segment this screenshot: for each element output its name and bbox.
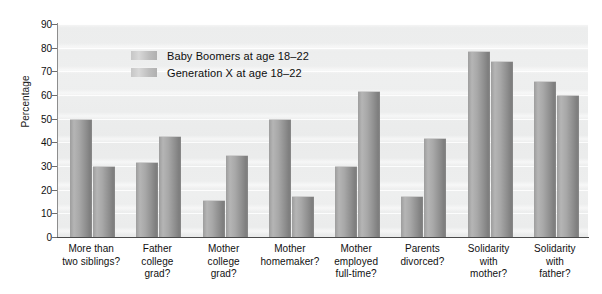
bar	[335, 166, 357, 237]
y-tick-label: 10	[6, 208, 52, 219]
x-tick-label-line: Solidarity	[468, 243, 510, 254]
bar	[203, 200, 225, 237]
x-axis-line	[57, 237, 589, 238]
bar	[557, 95, 579, 237]
x-tick-label: Parentsdivorced?	[389, 243, 455, 268]
bar	[136, 162, 158, 237]
y-tick-label: 60	[6, 90, 52, 101]
x-tick-label-line: homemaker?	[260, 256, 319, 267]
x-tick-label-line: Mother	[208, 243, 239, 254]
legend: Baby Boomers at age 18–22Generation X at…	[131, 49, 309, 83]
x-tick-label-line: grad?	[144, 268, 170, 279]
bar	[424, 138, 446, 237]
y-tick-label: 90	[6, 19, 52, 30]
bar	[468, 51, 490, 237]
legend-label: Generation X at age 18–22	[167, 67, 302, 79]
bar-chart: Percentage 9080706050403020100 Baby Boom…	[0, 0, 602, 294]
x-tick-label-line: mother?	[470, 268, 507, 279]
x-tick-label-line: college	[208, 256, 240, 267]
x-axis-labels: More thantwo siblings?Fathercollegegrad?…	[58, 243, 588, 294]
x-tick-label-line: employed	[334, 256, 378, 267]
legend-swatch-icon	[131, 68, 157, 77]
bar	[226, 155, 248, 237]
x-tick-label-line: full-time?	[336, 268, 377, 279]
x-tick-label-line: two siblings?	[62, 256, 120, 267]
y-tick-label: 20	[6, 184, 52, 195]
bar	[292, 196, 314, 237]
x-tick-label-line: Solidarity	[534, 243, 576, 254]
bar	[358, 91, 380, 237]
x-tick-label-line: Mother	[340, 243, 371, 254]
legend-item: Baby Boomers at age 18–22	[131, 49, 309, 62]
y-tick-label: 80	[6, 42, 52, 53]
y-tick-label: 40	[6, 137, 52, 148]
bar	[70, 119, 92, 237]
bar	[491, 61, 513, 237]
bar	[93, 166, 115, 237]
x-tick-label: More thantwo siblings?	[58, 243, 124, 268]
x-tick-label-line: grad?	[211, 268, 237, 279]
x-tick-label-line: college	[141, 256, 173, 267]
y-tick-label: 0	[6, 232, 52, 243]
x-tick-label-line: Father	[143, 243, 172, 254]
legend-item: Generation X at age 18–22	[131, 66, 309, 79]
bar	[401, 196, 423, 237]
x-tick-label-line: with	[480, 256, 498, 267]
bar	[159, 136, 181, 237]
x-tick-label-line: Parents	[405, 243, 440, 254]
x-tick-label: Mothercollegegrad?	[191, 243, 257, 281]
y-tick-label: 30	[6, 161, 52, 172]
x-tick-label: Motheremployedfull-time?	[323, 243, 389, 281]
bar	[269, 119, 291, 237]
bar	[534, 81, 556, 237]
y-tick-label: 50	[6, 113, 52, 124]
y-axis-line	[57, 23, 58, 238]
x-tick-label-line: divorced?	[400, 256, 444, 267]
x-tick-label-line: father?	[539, 268, 570, 279]
x-tick-label: Solidaritywithmother?	[456, 243, 522, 281]
x-tick-label: Solidaritywithfather?	[522, 243, 588, 281]
x-tick-label: Fathercollegegrad?	[124, 243, 190, 281]
y-axis-ticks: 9080706050403020100	[0, 0, 52, 294]
x-tick-label-line: More than	[68, 243, 113, 254]
x-tick-label: Motherhomemaker?	[257, 243, 323, 268]
y-tick-label: 70	[6, 66, 52, 77]
x-tick-label-line: Mother	[274, 243, 305, 254]
legend-label: Baby Boomers at age 18–22	[167, 50, 309, 62]
x-tick-label-line: with	[546, 256, 564, 267]
legend-swatch-icon	[131, 51, 157, 60]
gridline	[58, 24, 588, 25]
